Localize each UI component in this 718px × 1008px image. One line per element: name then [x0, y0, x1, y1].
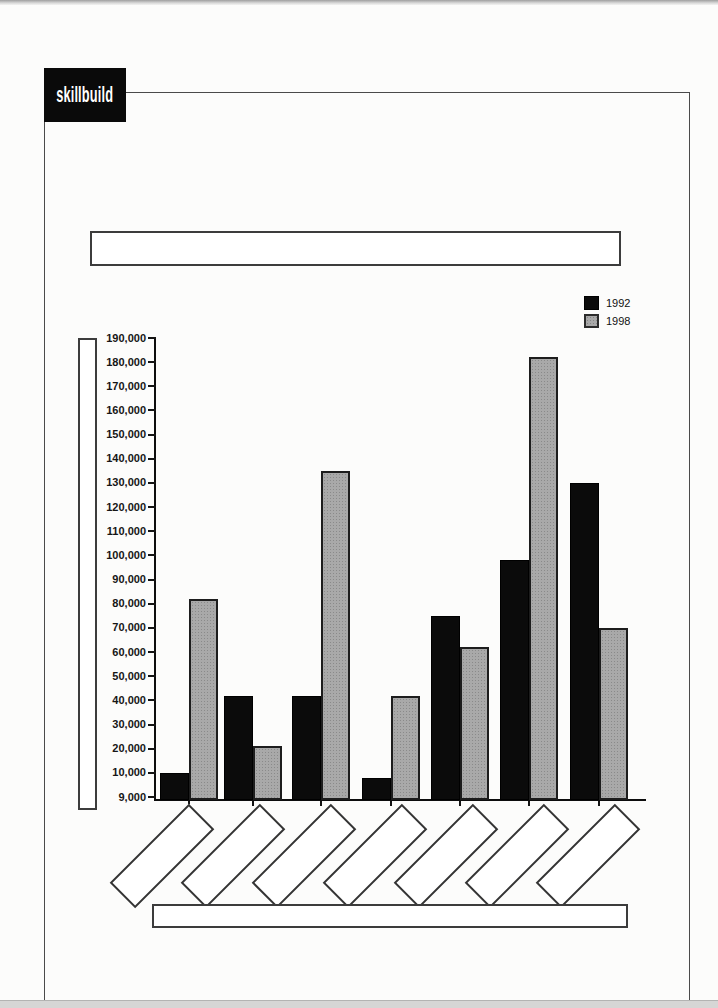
x-axis-tick — [598, 801, 600, 806]
bar-1992-group-2 — [224, 696, 253, 800]
y-axis-label: 140,000 — [96, 453, 146, 464]
bar-1992-group-1 — [160, 773, 189, 800]
y-axis-tick — [148, 385, 156, 387]
y-axis-label: 160,000 — [96, 405, 146, 416]
scanned-chart-page: skillbuild 1992 1998 190,000180,000170,0… — [0, 0, 718, 1008]
bar-1998-group-2 — [253, 746, 282, 800]
y-axis-label: 90,000 — [96, 574, 146, 585]
y-axis-label: 40,000 — [96, 695, 146, 706]
x-axis-tick — [390, 801, 392, 806]
y-axis-label: 100,000 — [96, 550, 146, 561]
bar-1992-group-5 — [431, 616, 460, 800]
y-axis-label: 120,000 — [96, 502, 146, 513]
y-axis-tick — [148, 530, 156, 532]
y-axis-tick — [148, 724, 156, 726]
y-axis-tick — [148, 772, 156, 774]
bar-1998-group-4 — [391, 696, 420, 800]
bar-1992-group-3 — [292, 696, 321, 800]
y-axis-label: 110,000 — [96, 526, 146, 537]
y-axis-label: 80,000 — [96, 598, 146, 609]
y-axis-tick — [148, 337, 156, 339]
y-axis-label: 130,000 — [96, 477, 146, 488]
chart-title-placeholder — [90, 231, 621, 266]
scan-top-edge — [0, 0, 718, 5]
bar-1992-group-7 — [570, 483, 599, 800]
bar-1998-group-1 — [189, 599, 218, 800]
bar-1998-group-6 — [529, 357, 558, 800]
bar-1998-group-5 — [460, 647, 489, 800]
y-axis-label: 30,000 — [96, 719, 146, 730]
bar-1992-group-6 — [500, 560, 529, 800]
x-axis-tick — [459, 801, 461, 806]
y-axis-label: 190,000 — [96, 333, 146, 344]
x-axis-tick — [252, 801, 254, 806]
y-axis-label: 50,000 — [96, 671, 146, 682]
y-axis-tick — [148, 506, 156, 508]
y-axis-tick — [148, 748, 156, 750]
x-axis-title-placeholder — [152, 904, 628, 928]
y-axis-tick — [148, 796, 156, 798]
y-axis-tick — [148, 699, 156, 701]
y-axis-tick — [148, 603, 156, 605]
legend-label-1998: 1998 — [606, 315, 630, 327]
y-axis-tick — [148, 579, 156, 581]
y-axis-line — [154, 338, 156, 801]
legend-label-1992: 1992 — [606, 297, 630, 309]
y-axis-label: 150,000 — [96, 429, 146, 440]
legend-item-1992: 1992 — [584, 294, 630, 312]
bar-1998-group-7 — [599, 628, 628, 800]
y-axis-tick — [148, 675, 156, 677]
y-axis-title-placeholder — [78, 338, 97, 810]
skillbuild-logo-text: skillbuild — [56, 82, 113, 107]
y-axis-tick — [148, 482, 156, 484]
y-axis-label: 9,000 — [96, 792, 146, 803]
y-axis-label: 20,000 — [96, 743, 146, 754]
y-axis-label: 170,000 — [96, 381, 146, 392]
y-axis-tick — [148, 651, 156, 653]
y-axis-tick — [148, 409, 156, 411]
x-axis-tick — [320, 801, 322, 806]
y-axis-tick — [148, 458, 156, 460]
legend-item-1998: 1998 — [584, 312, 630, 330]
y-axis-tick — [148, 627, 156, 629]
y-axis-tick — [148, 434, 156, 436]
y-axis-tick — [148, 361, 156, 363]
scan-bottom-edge — [0, 1000, 718, 1008]
y-axis-label: 70,000 — [96, 622, 146, 633]
skillbuild-logo: skillbuild — [44, 68, 126, 122]
legend-swatch-1998 — [584, 314, 599, 328]
legend: 1992 1998 — [584, 294, 630, 330]
x-axis-tick — [528, 801, 530, 806]
y-axis-label: 180,000 — [96, 357, 146, 368]
y-axis-label: 10,000 — [96, 767, 146, 778]
y-axis-tick — [148, 554, 156, 556]
y-axis-label: 60,000 — [96, 647, 146, 658]
legend-swatch-1992 — [584, 296, 599, 310]
bar-1992-group-4 — [362, 778, 391, 800]
bar-1998-group-3 — [321, 471, 350, 800]
